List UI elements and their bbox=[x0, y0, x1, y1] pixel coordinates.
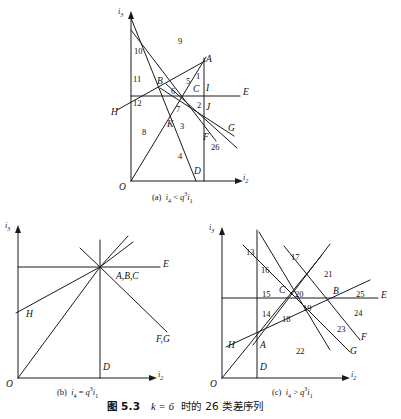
figure-number: 图 5.3 bbox=[107, 400, 140, 412]
panel-c-region-22: 22 bbox=[296, 347, 305, 356]
panel-c-region-19: 19 bbox=[303, 304, 312, 313]
figure-main-caption: 图 5.3 k = 6 时的 26 类差序列 bbox=[107, 401, 263, 413]
panel-c-caption-lhs-sub: 4 bbox=[288, 393, 291, 399]
panel-c-y-arrow bbox=[219, 227, 225, 235]
panel-c-region-14: 14 bbox=[262, 310, 271, 319]
figure-caption-k: k = 6 bbox=[151, 401, 174, 412]
panel-c-point-B: B bbox=[333, 287, 339, 297]
panel-c-x-arrow bbox=[342, 375, 350, 381]
panel-c-region-13: 13 bbox=[246, 248, 255, 257]
panel-c-region-17: 17 bbox=[291, 253, 300, 262]
panel-c-point-C: C bbox=[279, 286, 285, 296]
panel-c-region-24: 24 bbox=[354, 309, 363, 318]
panel-c-region-23: 23 bbox=[337, 325, 346, 334]
panel-c-point-O: O bbox=[210, 380, 217, 390]
panel-c-x-axis-label: i2 bbox=[351, 371, 356, 381]
panel-c-linework bbox=[0, 0, 401, 419]
panel-c-point-E: E bbox=[381, 291, 387, 301]
panel-c-y-axis-label: i3 bbox=[209, 224, 214, 234]
figure-caption-rest: 时的 26 类差序列 bbox=[181, 400, 263, 412]
panel-c-caption-rel: > bbox=[293, 387, 298, 397]
panel-c-point-F: F bbox=[361, 333, 367, 343]
panel-c-region-21: 21 bbox=[324, 270, 333, 279]
panel-c-region-20: 20 bbox=[295, 290, 304, 299]
panel-c-point-H: H bbox=[228, 341, 235, 351]
panel-c-region-16: 16 bbox=[261, 266, 270, 275]
panel-c-region-18: 18 bbox=[282, 315, 291, 324]
panel-c-point-G: G bbox=[350, 347, 357, 357]
panel-c-point-A: A bbox=[260, 341, 266, 351]
panel-c-caption: (c) i4 > q3i1 bbox=[272, 386, 313, 399]
panel-c-caption-label: (c) bbox=[272, 387, 281, 397]
panel-c-region-25: 25 bbox=[356, 290, 365, 299]
panel-c-region-15: 15 bbox=[262, 290, 271, 299]
panel-c-caption-sub: 1 bbox=[310, 393, 313, 399]
panel-c-point-D: D bbox=[260, 363, 267, 373]
figure-5-3: i3 i2 O 10 9 11 12 6 5 1 7 2 3 8 4 26 A … bbox=[0, 0, 401, 419]
